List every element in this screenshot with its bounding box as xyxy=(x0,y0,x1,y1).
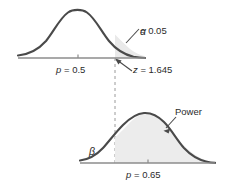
null-p-equals: = xyxy=(61,64,72,75)
z-equals: = xyxy=(138,64,149,75)
alpha-value: 0.05 xyxy=(148,25,167,36)
alt-p-value: 0.65 xyxy=(142,169,161,180)
power-diagram-canvas xyxy=(0,0,228,192)
alpha-label: α = 0.05 xyxy=(140,26,167,36)
critical-value-arrow-head xyxy=(115,59,122,65)
alpha-arrow-shaft xyxy=(126,29,139,43)
alternative-p-label: p = 0.65 xyxy=(126,170,161,180)
z-value: 1.645 xyxy=(149,64,173,75)
critical-z-label: z = 1.645 xyxy=(133,65,172,75)
alt-p-equals: = xyxy=(131,169,142,180)
power-region-shading xyxy=(115,114,215,163)
beta-label: β xyxy=(89,146,95,157)
null-p-value: 0.5 xyxy=(72,64,85,75)
power-diagram-figure: α = 0.05 z = 1.645 p = 0.5 β Power p = 0… xyxy=(0,0,228,192)
power-arrow-shaft xyxy=(166,117,176,128)
alpha-symbol: α xyxy=(140,26,146,37)
null-p-label: p = 0.5 xyxy=(56,65,85,75)
power-label: Power xyxy=(175,107,202,117)
